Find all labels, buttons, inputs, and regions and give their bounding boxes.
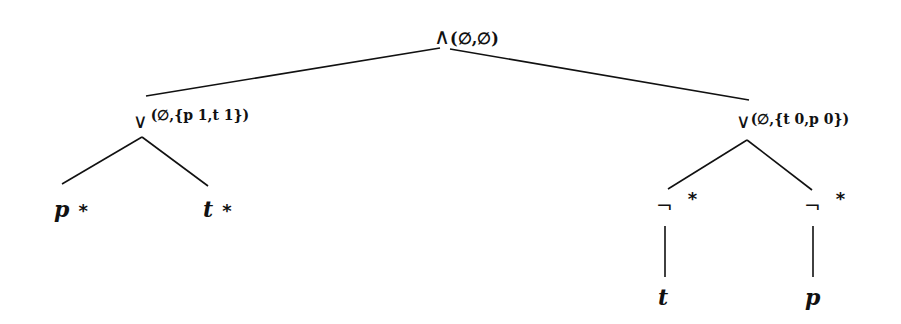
star-mark: * bbox=[222, 200, 231, 221]
or-operator: ∨ bbox=[736, 109, 751, 133]
edge-leftor-p bbox=[62, 137, 142, 184]
leaf-t: t * bbox=[203, 198, 232, 220]
edge-root-right bbox=[450, 49, 749, 100]
star-mark: * bbox=[688, 188, 697, 209]
edge-leftor-t bbox=[142, 137, 208, 186]
right-or-annotation: (∅,{t 0,p 0}) bbox=[751, 111, 850, 127]
variable-p: p bbox=[805, 284, 820, 310]
tree-edges bbox=[0, 0, 901, 324]
left-or-node: ∨(∅,{p 1,t 1}) bbox=[133, 111, 249, 131]
edge-root-left bbox=[146, 48, 440, 96]
edge-rightor-neg-t bbox=[668, 140, 747, 189]
neg-t-node: ¬ * bbox=[656, 196, 697, 216]
root-annotation: (∅,∅) bbox=[450, 29, 499, 48]
not-operator: ¬ bbox=[804, 194, 821, 218]
leaf-p: p * bbox=[54, 198, 88, 220]
variable-p: p bbox=[54, 196, 69, 222]
left-or-annotation: (∅,{p 1,t 1}) bbox=[151, 107, 250, 123]
neg-p-child: p bbox=[805, 286, 820, 308]
root-node: ∧(∅,∅) bbox=[434, 26, 499, 48]
and-operator: ∧ bbox=[434, 24, 450, 49]
edge-rightor-neg-p bbox=[747, 140, 812, 190]
neg-t-child: t bbox=[658, 286, 668, 308]
not-operator: ¬ bbox=[656, 194, 673, 218]
star-mark: * bbox=[836, 188, 845, 209]
or-operator: ∨ bbox=[133, 109, 148, 133]
star-mark: * bbox=[78, 200, 87, 221]
right-or-node: ∨(∅,{t 0,p 0}) bbox=[736, 111, 849, 131]
neg-p-node: ¬ * bbox=[804, 196, 845, 216]
variable-t: t bbox=[658, 284, 668, 310]
variable-t: t bbox=[203, 196, 213, 222]
